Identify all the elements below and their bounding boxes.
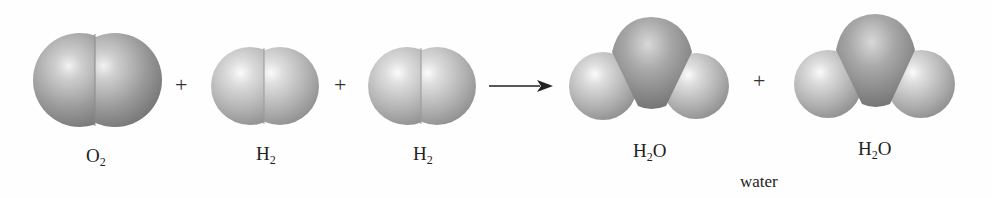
plus-sign: + [753,70,765,92]
formula-label-h2o: H2O [858,139,891,161]
formula-subscript: 2 [100,155,106,169]
product-caption: water [740,172,778,192]
h2o-molecule-2 [794,14,955,118]
o2-molecule [33,33,162,127]
formula-label-h2: H2 [256,144,276,166]
formula-label-h2: H2 [413,144,433,166]
plus-sign: + [175,74,187,96]
reaction-diagram: + + + O2 H2 H2 H2O H2O water [0,0,992,198]
formula-element: H [256,143,270,164]
yields-arrow-icon [489,80,553,92]
formula-element: H [413,143,427,164]
plus-sign: + [334,74,346,96]
formula-element: O [878,138,892,159]
h2-molecule-2 [368,47,476,125]
formula-element: O [86,145,100,166]
h2o-molecule-1 [569,17,729,120]
formula-subscript: 2 [270,153,276,167]
formula-element: H [858,138,872,159]
h2-molecule-1 [211,47,319,125]
formula-label-h2o: H2O [633,141,666,163]
formula-element: H [633,140,647,161]
formula-label-o2: O2 [86,146,106,168]
molecule-models [0,0,992,198]
formula-subscript: 2 [427,153,433,167]
formula-element: O [653,140,667,161]
